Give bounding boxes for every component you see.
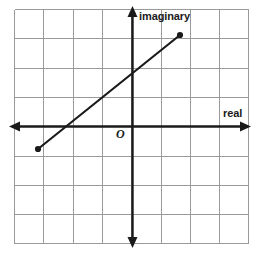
imaginary-axis-label: imaginary bbox=[139, 10, 190, 22]
endpoint-dot-upper-right bbox=[177, 32, 183, 38]
data-line-segment bbox=[35, 32, 183, 152]
origin-label: O bbox=[116, 127, 125, 142]
real-axis bbox=[9, 122, 251, 132]
arrowhead-right bbox=[240, 122, 251, 132]
coordinate-plane-svg bbox=[0, 0, 262, 259]
endpoint-dot-lower-left bbox=[35, 146, 41, 152]
arrowhead-up bbox=[128, 6, 138, 17]
arrowhead-down bbox=[128, 237, 138, 248]
real-axis-label: real bbox=[223, 107, 242, 119]
complex-plane-figure: imaginary real O bbox=[0, 0, 262, 259]
